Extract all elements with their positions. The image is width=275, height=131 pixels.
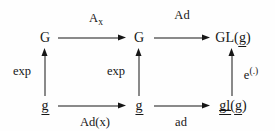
arrow-shaft [58,105,119,106]
arrow-head [118,103,126,109]
arrow-label-Ad-top: Ad [174,9,189,22]
arrow-label-e-superscript-dot: e(.) [244,69,258,82]
arrow-label-e-superscript: (.) [250,66,259,76]
arrow-top-left-to-top-middle [58,34,126,43]
node-top-right-GL-g: GL(g) [215,31,251,45]
arrow-shaft [138,55,139,96]
arrow-head [202,103,210,109]
node-top-right-suffix: ) [246,30,251,45]
node-top-right-arg: g [239,31,246,45]
arrow-label-e-base: e [244,68,250,82]
arrow-shaft [154,105,203,106]
arrow-bottom-left-to-top-left [41,48,50,96]
node-bottom-left-glyph: g [41,99,48,113]
arrow-bottom-left-to-bottom-middle [58,102,126,111]
arrow-label-A-subscript: x [98,16,103,26]
arrow-shaft [154,37,203,38]
arrow-bottom-middle-to-top-middle [135,48,144,96]
node-top-middle-G: G [134,31,144,45]
arrow-label-A-base: A [89,11,98,25]
commutative-diagram: G G GL(g) g g gl(g) [0,0,275,131]
node-bottom-left-g: g [41,99,48,113]
arrow-top-middle-to-top-right [154,34,210,43]
arrow-head [202,35,210,41]
arrow-shaft [44,55,45,96]
node-bottom-middle-glyph: g [135,99,142,113]
arrow-bottom-right-to-top-right [228,48,237,96]
arrow-label-A-sub-x: Ax [89,12,103,25]
arrow-shaft [231,55,232,96]
arrow-shaft [58,37,119,38]
node-top-right-prefix: GL( [215,30,239,45]
node-bottom-middle-g: g [135,99,142,113]
node-bottom-right-close: ) [242,98,247,113]
arrow-label-ad: ad [175,116,187,129]
node-bottom-right-gl-g: gl(g) [219,99,247,113]
node-top-left-G: G [40,31,50,45]
arrow-bottom-middle-to-bottom-right [154,102,210,111]
node-bottom-right-op: gl [219,99,230,113]
node-bottom-right-arg: g [235,99,242,113]
arrow-label-exp-middle: exp [107,65,125,78]
arrow-label-Ad-of-x: Ad(x) [80,116,110,129]
arrow-label-exp-left: exp [13,65,31,78]
arrow-head [118,35,126,41]
